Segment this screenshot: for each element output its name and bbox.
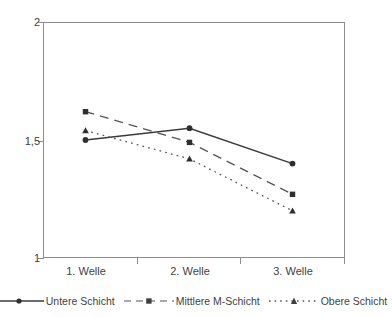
data-point-marker [187,125,193,131]
legend-key-dashed-square-icon [122,295,176,307]
data-point-marker [82,127,89,133]
legend-label-obere-schicht: Obere Schicht [321,295,392,307]
legend-entry-obere-schicht[interactable]: Obere Schicht [267,295,392,307]
data-point-marker [290,192,295,197]
legend-key-dotted-triangle-icon [267,295,321,307]
legend-entry-mittlere-m-schicht[interactable]: Mittlere M-Schicht [122,295,267,307]
legend-entry-untere-schicht[interactable]: Untere Schicht [0,295,122,307]
legend: Untere Schicht Mittlere M-Schicht Obere … [26,292,360,310]
data-point-marker [290,161,296,167]
data-point-marker [186,156,193,162]
legend-label-mittlere-m-schicht: Mittlere M-Schicht [176,295,267,307]
data-point-marker [187,140,192,145]
data-point-marker [289,207,296,213]
data-point-marker [83,137,89,143]
legend-label-untere-schicht: Untere Schicht [46,295,122,307]
legend-key-solid-circle-icon [0,295,46,307]
data-point-marker [83,109,88,114]
